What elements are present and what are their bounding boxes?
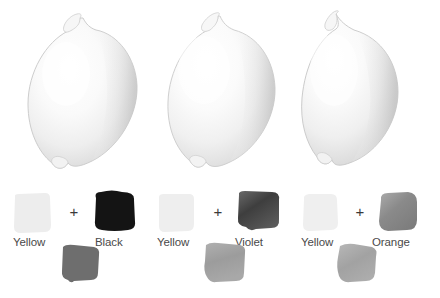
lemon-illustration-yellow-violet	[148, 0, 294, 186]
paint-swatch-icon	[374, 190, 420, 234]
paint-swatch-icon	[300, 192, 340, 234]
plus-operator-2: +	[210, 204, 226, 220]
lemon-illustration-yellow-black	[6, 0, 152, 186]
swatch-base-yellow-1	[12, 192, 52, 234]
color-mix-yellow-violet: + Yellow Violet	[146, 186, 292, 298]
swatch-label-yellow-3: Yellow	[301, 236, 333, 249]
paint-swatch-icon	[12, 192, 52, 234]
swatch-result-yellow-black	[58, 243, 103, 285]
lemon-drawing-1-icon	[6, 0, 152, 186]
swatch-mixer-black	[92, 190, 137, 232]
swatch-base-yellow-2	[156, 192, 196, 234]
paint-swatch-icon	[332, 241, 380, 286]
lemon-illustration-yellow-orange	[292, 0, 438, 186]
paint-swatch-icon	[92, 190, 137, 232]
swatch-mixer-orange	[374, 190, 420, 234]
color-mixing-row: + Yellow Black +	[0, 186, 440, 298]
swatch-base-yellow-3	[300, 192, 340, 234]
swatch-result-yellow-violet	[200, 241, 248, 286]
plus-operator-1: +	[66, 204, 82, 220]
paint-swatch-icon	[156, 192, 196, 234]
lemon-illustration-row	[0, 0, 440, 186]
lemon-drawing-2-icon	[148, 0, 294, 186]
swatch-result-yellow-orange	[332, 241, 380, 286]
paint-swatch-icon	[200, 241, 248, 286]
color-mix-yellow-black: + Yellow Black	[2, 186, 148, 298]
paint-swatch-icon	[58, 243, 103, 285]
paint-swatch-icon	[234, 189, 282, 233]
swatch-label-yellow-2: Yellow	[157, 236, 189, 249]
color-mix-yellow-orange: + Yellow Orange	[290, 186, 436, 298]
lemon-drawing-3-icon	[292, 0, 438, 186]
plus-operator-3: +	[352, 204, 368, 220]
swatch-label-yellow-1: Yellow	[13, 236, 45, 249]
swatch-mixer-violet	[234, 189, 282, 233]
